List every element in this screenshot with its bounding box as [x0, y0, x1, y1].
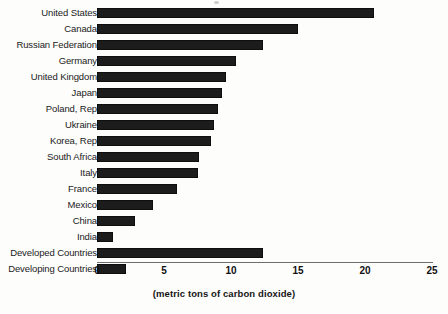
bar-row: India	[0, 230, 448, 246]
category-label: Mexico	[0, 198, 97, 211]
x-axis-title: (metric tons of carbon dioxide)	[0, 288, 448, 299]
scan-artifact	[214, 1, 219, 4]
bar	[97, 248, 263, 258]
bar	[97, 184, 177, 194]
x-tick-label: 25	[417, 265, 447, 276]
category-label: Italy	[0, 166, 97, 179]
bar	[97, 120, 214, 130]
bar-track	[97, 40, 432, 50]
bar	[97, 88, 222, 98]
bar	[97, 136, 211, 146]
bar	[97, 168, 198, 178]
bar	[97, 104, 218, 114]
bar-row: Ukraine	[0, 118, 448, 134]
bar-row: Japan	[0, 86, 448, 102]
bar	[97, 8, 374, 18]
x-tick-label: 0	[82, 265, 112, 276]
bar-track	[97, 120, 432, 130]
bar-track	[97, 136, 432, 146]
bar	[97, 152, 199, 162]
bar-track	[97, 168, 432, 178]
bar-track	[97, 184, 432, 194]
bar-track	[97, 88, 432, 98]
bar-track	[97, 104, 432, 114]
category-label: Japan	[0, 86, 97, 99]
bar	[97, 216, 135, 226]
bar-row: Germany	[0, 54, 448, 70]
category-label: France	[0, 182, 97, 195]
bar-row: Canada	[0, 22, 448, 38]
category-label: Russian Federation	[0, 38, 97, 51]
category-label: Canada	[0, 22, 97, 35]
category-label: India	[0, 230, 97, 243]
bar-row: United States	[0, 6, 448, 22]
bar-track	[97, 56, 432, 66]
bar-track	[97, 152, 432, 162]
category-label: Germany	[0, 54, 97, 67]
bar-track	[97, 8, 432, 18]
category-label: South Africa	[0, 150, 97, 163]
category-label: Poland, Rep	[0, 102, 97, 115]
x-tick-label: 10	[216, 265, 246, 276]
bar-track	[97, 72, 432, 82]
bar	[97, 72, 226, 82]
bar-row: United Kingdom	[0, 70, 448, 86]
x-tick-label: 20	[350, 265, 380, 276]
bar	[97, 40, 263, 50]
bar-row: South Africa	[0, 150, 448, 166]
bar-row: Mexico	[0, 198, 448, 214]
category-label: Developed Countries	[0, 246, 97, 259]
x-axis-line	[97, 262, 433, 263]
x-tick-label: 5	[149, 265, 179, 276]
category-label: China	[0, 214, 97, 227]
bar	[97, 232, 113, 242]
x-tick-label: 15	[283, 265, 313, 276]
bar-row: China	[0, 214, 448, 230]
bar-row: Developed Countries	[0, 246, 448, 262]
bar-track	[97, 216, 432, 226]
bar-track	[97, 232, 432, 242]
bar	[97, 200, 153, 210]
bar-chart: United StatesCanadaRussian FederationGer…	[0, 0, 448, 314]
bar-row: Korea, Rep	[0, 134, 448, 150]
bar-track	[97, 248, 432, 258]
bar-track	[97, 200, 432, 210]
plot-area: United StatesCanadaRussian FederationGer…	[0, 6, 448, 262]
bar-track	[97, 24, 432, 34]
category-label: United Kingdom	[0, 70, 97, 83]
bar	[97, 56, 236, 66]
category-label: United States	[0, 6, 97, 19]
bar-row: Russian Federation	[0, 38, 448, 54]
bar-row: Italy	[0, 166, 448, 182]
bar	[97, 24, 298, 34]
x-axis-ticks: 0510152025	[0, 265, 448, 281]
bar-row: Poland, Rep	[0, 102, 448, 118]
bar-row: France	[0, 182, 448, 198]
category-label: Ukraine	[0, 118, 97, 131]
category-label: Korea, Rep	[0, 134, 97, 147]
